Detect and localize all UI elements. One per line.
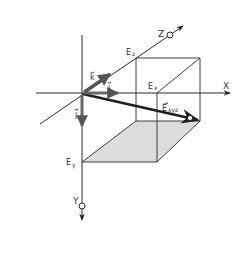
y-axis-label: Y bbox=[72, 196, 79, 206]
ey-label: E y bbox=[66, 158, 76, 169]
j-label: → j bbox=[74, 106, 78, 119]
ex-label: E x bbox=[148, 82, 158, 91]
k-label: → k bbox=[90, 69, 95, 82]
resultant-vector-exyz bbox=[83, 94, 198, 120]
ez-label: E z bbox=[126, 48, 135, 57]
svg-text:E: E bbox=[162, 104, 167, 113]
svg-text:j: j bbox=[74, 110, 77, 119]
i-label: → i bbox=[107, 79, 111, 92]
svg-text:z: z bbox=[132, 50, 135, 57]
svg-text:E: E bbox=[66, 158, 71, 167]
svg-text:E: E bbox=[148, 82, 153, 91]
svg-text:k: k bbox=[90, 73, 95, 82]
shaded-base-plane bbox=[82, 121, 200, 162]
resultant-ring bbox=[187, 115, 192, 120]
svg-text:E: E bbox=[126, 48, 131, 57]
svg-text:xyz: xyz bbox=[168, 106, 178, 114]
vector-diagram: X Y Z E z E x E y → E xyz → k → i → j bbox=[0, 0, 248, 262]
svg-text:y: y bbox=[72, 161, 76, 169]
svg-text:i: i bbox=[108, 83, 110, 92]
z-axis-label: Z bbox=[158, 29, 164, 39]
svg-text:x: x bbox=[154, 84, 158, 91]
y-axis-ring bbox=[79, 203, 85, 209]
z-axis-ring bbox=[167, 32, 173, 38]
exyz-label: → E xyz bbox=[162, 99, 178, 114]
x-axis-label: X bbox=[223, 81, 229, 91]
